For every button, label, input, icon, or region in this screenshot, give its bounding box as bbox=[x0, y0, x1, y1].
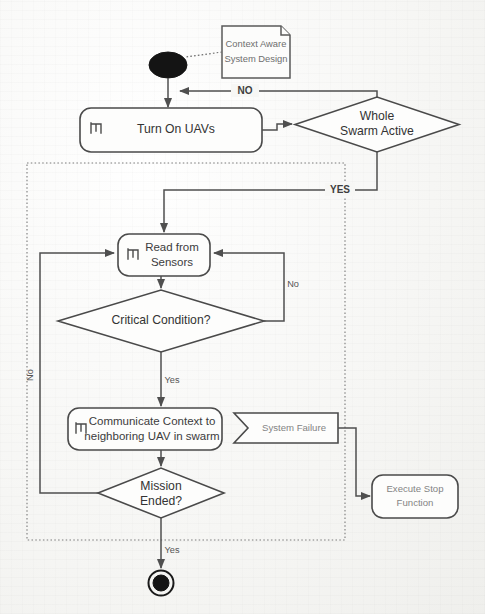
edge-no-mission-ended-loop bbox=[40, 253, 114, 493]
decision-label-critical-condition: Critical Condition? bbox=[112, 313, 211, 327]
action-label-turn-on-uavs: Turn On UAVs bbox=[137, 122, 215, 136]
final-node bbox=[149, 571, 174, 596]
edge-label-yes-mission: Yes bbox=[165, 545, 180, 555]
diagram-canvas: Context Aware System Design NO Turn bbox=[0, 0, 485, 614]
decision-mission-ended[interactable]: Mission Ended? bbox=[98, 468, 224, 518]
edge-no-return-to-start bbox=[180, 91, 377, 97]
note-line-1: Context Aware bbox=[226, 38, 287, 49]
action-read-from-sensors[interactable]: Read from Sensors bbox=[118, 234, 210, 276]
note-context-aware-system-design: Context Aware System Design bbox=[222, 26, 290, 78]
decision-label-whole-swarm-line-2: Swarm Active bbox=[340, 124, 414, 138]
action-label-read-from-sensors-line-2: Sensors bbox=[151, 256, 193, 268]
action-label-execute-stop-line-2: Function bbox=[397, 497, 434, 508]
action-execute-stop-function[interactable]: Execute Stop Function bbox=[372, 475, 458, 518]
decision-label-mission-ended-line-2: Ended? bbox=[140, 494, 182, 508]
edge-label-no-mission-loop-group: No bbox=[25, 369, 35, 381]
accept-event-label-system-failure: System Failure bbox=[262, 422, 326, 433]
decision-critical-condition[interactable]: Critical Condition? bbox=[58, 290, 264, 352]
note-anchor-link bbox=[186, 52, 222, 57]
action-label-communicate-line-1: Communicate Context to bbox=[89, 415, 216, 427]
initial-node bbox=[149, 52, 187, 78]
edge-label-yes-upper: YES bbox=[330, 184, 350, 195]
edge-turn-on-uavs-to-whole-swarm-active bbox=[262, 124, 292, 130]
edge-label-no-sensor-loop: No bbox=[287, 279, 299, 289]
action-communicate-context[interactable]: Communicate Context to neighboring UAV i… bbox=[68, 408, 222, 450]
edge-label-no-mission-loop: No bbox=[25, 369, 35, 381]
decision-label-whole-swarm-line-1: Whole bbox=[360, 109, 395, 123]
action-label-communicate-line-2: neighboring UAV in swarm bbox=[84, 430, 219, 442]
activity-diagram: Context Aware System Design NO Turn bbox=[0, 0, 485, 614]
edge-system-failure-to-execute-stop bbox=[338, 428, 370, 496]
accept-event-system-failure[interactable]: System Failure bbox=[234, 413, 338, 443]
action-turn-on-uavs[interactable]: Turn On UAVs bbox=[80, 108, 262, 152]
decision-label-mission-ended-line-1: Mission bbox=[140, 479, 181, 493]
action-label-execute-stop-line-1: Execute Stop bbox=[386, 483, 443, 494]
note-line-2: System Design bbox=[224, 53, 287, 64]
decision-whole-swarm-active[interactable]: Whole Swarm Active bbox=[295, 97, 459, 152]
edge-label-yes-critical: Yes bbox=[165, 375, 180, 385]
action-label-read-from-sensors-line-1: Read from bbox=[145, 241, 199, 253]
edge-label-no-upper: NO bbox=[238, 85, 253, 96]
